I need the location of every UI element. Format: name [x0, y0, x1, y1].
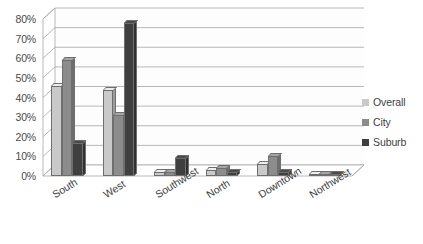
legend-swatch-icon: [362, 139, 369, 146]
legend-item-suburb[interactable]: Suburb: [362, 132, 423, 152]
legend-label: Suburb: [373, 136, 406, 148]
x-axis: SouthWestSouthwestNorthDowntownNorthwest: [0, 0, 423, 244]
legend-label: City: [373, 116, 391, 128]
legend-label: Overall: [373, 96, 406, 108]
legend-item-city[interactable]: City: [362, 112, 423, 132]
legend-swatch-icon: [362, 99, 369, 106]
legend: OverallCitySuburb: [362, 92, 423, 152]
x-axis-tick-label: North: [204, 177, 232, 201]
x-axis-tick-label: South: [50, 176, 79, 200]
x-axis-tick-label: Northwest: [307, 165, 353, 200]
x-axis-tick-label: Southwest: [153, 164, 200, 200]
x-axis-tick-label: Downtown: [256, 164, 303, 200]
bar-chart: 0%10%20%30%40%50%60%70%80% SouthWestSout…: [0, 0, 423, 244]
x-axis-tick-label: West: [101, 178, 127, 201]
legend-swatch-icon: [362, 119, 369, 126]
legend-item-overall[interactable]: Overall: [362, 92, 423, 112]
